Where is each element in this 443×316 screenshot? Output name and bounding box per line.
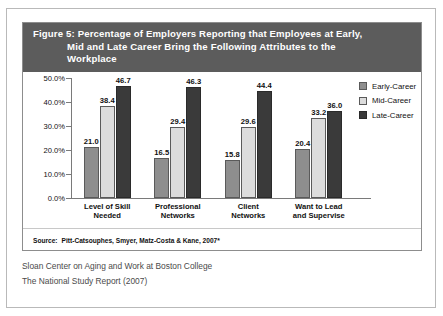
legend-item: Early-Career bbox=[359, 82, 416, 91]
chart-legend: Early-CareerMid-CareerLate-Career bbox=[359, 82, 416, 126]
y-axis-tick-label: 30.0% bbox=[43, 121, 65, 130]
legend-label: Late-Career bbox=[372, 111, 414, 120]
y-axis-tick-label: 10.0% bbox=[43, 169, 65, 178]
figure-caption: Sloan Center on Aging and Work at Boston… bbox=[22, 259, 412, 289]
legend-color-swatch bbox=[359, 82, 367, 90]
bar bbox=[311, 118, 326, 198]
bar bbox=[170, 127, 185, 198]
x-axis-category-label: ClientNetworks bbox=[231, 202, 265, 221]
x-axis-category-label: Level of SkillNeeded bbox=[84, 202, 130, 221]
bar-value-label: 16.5 bbox=[154, 148, 169, 157]
bar bbox=[154, 158, 169, 198]
y-axis-tick bbox=[66, 198, 71, 199]
bar-value-label: 21.0 bbox=[84, 137, 99, 146]
bar bbox=[225, 160, 240, 198]
x-axis-category-label: ProfessionalNetworks bbox=[155, 202, 201, 221]
y-axis-tick-label: 50.0% bbox=[43, 73, 65, 82]
figure-page: Figure 5: Percentage of Employers Report… bbox=[0, 0, 443, 316]
legend-item: Late-Career bbox=[359, 111, 416, 120]
y-axis-tick bbox=[66, 150, 71, 151]
caption-line-2: The National Study Report (2007) bbox=[22, 274, 412, 289]
figure-container: Figure 5: Percentage of Employers Report… bbox=[22, 22, 422, 251]
bar-value-label: 38.4 bbox=[100, 96, 115, 105]
bar bbox=[241, 127, 256, 198]
y-axis-tick bbox=[66, 102, 71, 103]
bar-value-label: 46.3 bbox=[186, 77, 201, 86]
y-axis-tick-label: 40.0% bbox=[43, 97, 65, 106]
y-axis-tick-label: 0.0% bbox=[48, 193, 65, 202]
bar bbox=[84, 147, 99, 197]
x-axis-category-label: Want to Leadand Supervise bbox=[293, 202, 345, 221]
figure-title-line-1: Figure 5: Percentage of Employers Report… bbox=[33, 28, 362, 39]
source-label: Source: bbox=[33, 237, 58, 244]
legend-label: Mid-Career bbox=[372, 96, 411, 105]
bar-value-label: 44.4 bbox=[257, 81, 272, 90]
source-citation: Pitt-Catsouphes, Smyer, Matz-Costa & Kan… bbox=[62, 237, 220, 244]
y-axis-labels: 0.0%10.0%20.0%30.0%40.0%50.0% bbox=[23, 78, 69, 198]
bar-value-label: 29.4 bbox=[170, 117, 185, 126]
bar-value-label: 20.4 bbox=[295, 139, 310, 148]
bar-group: 15.829.644.4 bbox=[225, 78, 272, 198]
bar bbox=[295, 149, 310, 198]
bar-value-label: 15.8 bbox=[225, 150, 240, 159]
figure-title-line-2: Mid and Late Career Bring the Following … bbox=[33, 41, 411, 54]
x-axis-category-labels: Level of SkillNeededProfessionalNetworks… bbox=[72, 202, 354, 228]
legend-color-swatch bbox=[359, 111, 367, 119]
figure-title: Figure 5: Percentage of Employers Report… bbox=[23, 23, 421, 72]
legend-item: Mid-Career bbox=[359, 96, 416, 105]
y-axis-tick bbox=[66, 174, 71, 175]
bar bbox=[186, 87, 201, 198]
y-axis-tick bbox=[66, 126, 71, 127]
figure-title-line-3: Workplace bbox=[33, 53, 411, 66]
y-axis-tick-label: 20.0% bbox=[43, 145, 65, 154]
bar-value-label: 36.0 bbox=[327, 101, 342, 110]
bar-group: 16.529.446.3 bbox=[154, 78, 201, 198]
bars-container: 21.038.446.716.529.446.315.829.644.420.4… bbox=[72, 78, 354, 198]
source-divider bbox=[23, 228, 421, 229]
y-axis-tick bbox=[66, 78, 71, 79]
bar bbox=[257, 91, 272, 198]
source-note: Source:Pitt-Catsouphes, Smyer, Matz-Cost… bbox=[33, 237, 220, 244]
bar-value-label: 33.2 bbox=[311, 108, 326, 117]
bar-value-label: 46.7 bbox=[116, 76, 131, 85]
bar-group: 20.433.236.0 bbox=[295, 78, 342, 198]
bar-group: 21.038.446.7 bbox=[84, 78, 131, 198]
chart-plot-area: 0.0%10.0%20.0%30.0%40.0%50.0% 21.038.446… bbox=[23, 72, 421, 232]
caption-line-1: Sloan Center on Aging and Work at Boston… bbox=[22, 259, 412, 274]
legend-color-swatch bbox=[359, 97, 367, 105]
bar bbox=[327, 111, 342, 197]
bar bbox=[116, 86, 131, 198]
bar-value-label: 29.6 bbox=[241, 117, 256, 126]
x-axis-line bbox=[71, 198, 371, 199]
legend-label: Early-Career bbox=[372, 82, 416, 91]
bar bbox=[100, 106, 115, 198]
